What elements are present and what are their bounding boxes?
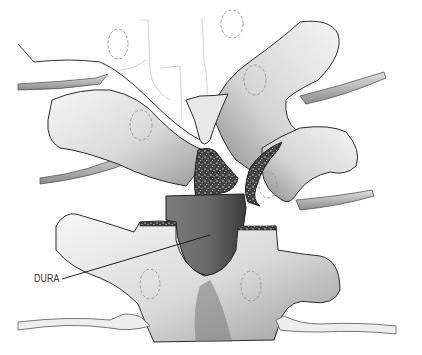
cut-lamina-left [194, 148, 238, 198]
mid-vertebra-left [48, 90, 204, 186]
cut-pedicle-left [140, 222, 176, 226]
cut-pedicle-right [238, 226, 276, 230]
dura-label: DURA [34, 273, 60, 284]
vertebrae-illustration [0, 0, 422, 355]
